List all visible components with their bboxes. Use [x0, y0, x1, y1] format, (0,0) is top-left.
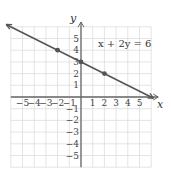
- data-point: [102, 71, 107, 76]
- y-tick-label: 2: [73, 69, 79, 79]
- x-tick-label: 4: [125, 98, 131, 108]
- plot-line: [6, 24, 153, 98]
- equation-label: x + 2y = 6: [98, 38, 152, 49]
- y-tick-label: 1: [73, 80, 79, 90]
- x-tick-label: 1: [90, 98, 96, 108]
- y-tick-label: 4: [73, 45, 79, 55]
- data-point: [79, 60, 84, 65]
- y-tick-label: −4: [66, 139, 80, 149]
- x-tick-label: 5: [137, 98, 143, 108]
- y-tick-label: −2: [66, 115, 79, 125]
- x-tick-label: 2: [102, 98, 108, 108]
- y-tick-label: −1: [66, 104, 79, 114]
- data-point: [55, 48, 60, 53]
- y-tick-label: 5: [73, 34, 79, 44]
- y-axis-label: y: [69, 12, 77, 25]
- y-tick-label: −3: [66, 127, 80, 137]
- y-tick-label: −5: [66, 151, 80, 161]
- x-axis-label: x: [157, 98, 164, 111]
- coordinate-plane: −5−4−3−2−11234554321−1−2−3−4−5 x + 2y = …: [0, 0, 171, 175]
- x-tick-label: 3: [113, 98, 119, 108]
